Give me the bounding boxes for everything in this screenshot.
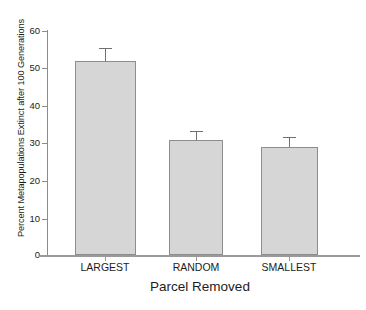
y-axis-line — [47, 30, 48, 256]
bar-largest — [75, 61, 136, 255]
x-tick-label-smallest: SMALLEST — [234, 261, 344, 274]
x-axis-line — [40, 255, 360, 257]
error-bar-stem-random — [196, 131, 197, 140]
y-tick-label-40: 40 — [20, 101, 40, 111]
bar-random — [169, 140, 223, 255]
error-bar-cap-random — [190, 131, 203, 132]
y-tick-label-30: 30 — [20, 138, 40, 148]
error-bar-cap-smallest — [283, 137, 296, 138]
y-tick-label-20: 20 — [20, 176, 40, 186]
x-axis-title: Parcel Removed — [40, 279, 360, 295]
bar-smallest — [261, 147, 318, 255]
error-bar-cap-largest — [99, 48, 112, 49]
error-bar-stem-smallest — [289, 137, 290, 147]
y-tick-label-0: 0 — [20, 250, 40, 260]
bar-chart-figure: Percent Metapopulations Extinct after 10… — [0, 0, 366, 310]
y-tick-label-10: 10 — [20, 214, 40, 224]
error-bar-stem-largest — [105, 48, 106, 61]
y-tick-label-60: 60 — [20, 26, 40, 36]
y-tick-label-50: 50 — [20, 63, 40, 73]
